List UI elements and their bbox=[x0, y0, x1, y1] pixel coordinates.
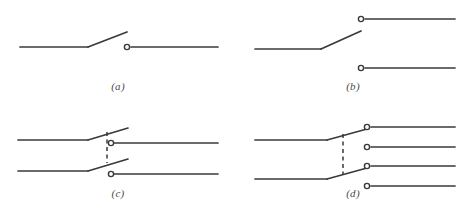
caption-c: (c) bbox=[98, 187, 138, 199]
terminal-b-2 bbox=[358, 65, 363, 70]
caption-b: (b) bbox=[333, 80, 373, 92]
blade-c-upper bbox=[88, 128, 128, 140]
terminal-c-2 bbox=[108, 171, 113, 176]
blade-d-upper bbox=[327, 129, 367, 140]
terminal-a-1 bbox=[124, 44, 129, 49]
blade-c-lower bbox=[88, 159, 128, 171]
blade-b bbox=[321, 31, 361, 49]
terminal-b-1 bbox=[358, 16, 363, 21]
terminal-d-2 bbox=[364, 144, 369, 149]
terminal-c-1 bbox=[108, 140, 113, 145]
caption-a: (a) bbox=[98, 80, 138, 92]
terminal-d-1 bbox=[364, 124, 369, 129]
blade-d-lower bbox=[327, 168, 367, 179]
switch-symbols-figure: (a) (b) (c) (d) bbox=[0, 0, 471, 213]
caption-d: (d) bbox=[333, 187, 373, 199]
terminal-d-3 bbox=[364, 163, 369, 168]
blade-a bbox=[88, 32, 127, 47]
